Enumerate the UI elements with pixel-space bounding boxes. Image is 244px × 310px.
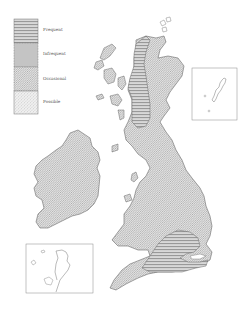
legend-label-possible: Possible (43, 99, 61, 104)
hebrides (94, 44, 126, 152)
shetland-island (212, 78, 226, 102)
ireland (34, 130, 100, 228)
legend-swatch-frequent (14, 19, 38, 43)
distribution-map: Frequent Infrequent Occasional Possible (0, 0, 244, 310)
isle-of-man (131, 172, 138, 182)
shetland-inset (192, 68, 237, 120)
legend-label-occasional: Occasional (43, 76, 67, 81)
legend-label-frequent: Frequent (43, 27, 63, 32)
legend-label-infrequent: Infrequent (43, 51, 66, 56)
coastline (55, 250, 70, 292)
channel-islands-inset (26, 244, 93, 293)
legend: Frequent Infrequent Occasional Possible (14, 19, 67, 114)
legend-swatch-occasional (14, 67, 38, 91)
anglesey (124, 194, 132, 202)
legend-swatch-possible (14, 91, 38, 114)
orkney (160, 17, 171, 32)
legend-swatch-infrequent (14, 43, 38, 67)
